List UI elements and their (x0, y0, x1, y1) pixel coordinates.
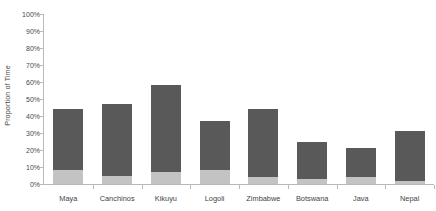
y-axis-tick-mark (40, 150, 43, 151)
y-axis-tick-label: 90% (14, 28, 40, 35)
x-axis-separator (190, 185, 191, 189)
x-axis-label: Canchinos (100, 194, 135, 203)
bar-slot (200, 14, 230, 184)
y-axis-tick-label: 70% (14, 62, 40, 69)
y-axis-tick-label: 20% (14, 147, 40, 154)
y-axis-tick-label: 50% (14, 96, 40, 103)
bar-stack[interactable] (346, 148, 376, 184)
x-axis-label: Logoli (205, 194, 225, 203)
x-axis-label: Botswana (296, 194, 328, 203)
y-axis-tick-labels: 0%10%20%30%40%50%60%70%80%90%100% (14, 0, 42, 211)
x-axis-label: Maya (59, 194, 77, 203)
bar-segment-upper[interactable] (53, 109, 83, 170)
bar-segment-lower[interactable] (346, 177, 376, 184)
x-axis-separator (434, 185, 435, 189)
bar-stack[interactable] (297, 142, 327, 184)
y-axis-title: Proportion of Time (0, 0, 14, 190)
bar-segment-upper[interactable] (346, 148, 376, 177)
y-axis-tick-mark (40, 116, 43, 117)
x-axis-label: Zimbabwe (246, 194, 280, 203)
bar-segment-lower[interactable] (102, 176, 132, 185)
bar-segment-lower[interactable] (151, 172, 181, 184)
x-axis-separator (288, 185, 289, 189)
x-axis-separator (239, 185, 240, 189)
bar-segment-upper[interactable] (102, 104, 132, 175)
y-axis-tick-mark (40, 133, 43, 134)
bar-slot (395, 14, 425, 184)
bar-segment-upper[interactable] (248, 109, 278, 177)
x-axis-label: Java (353, 194, 369, 203)
y-axis-tick-label: 60% (14, 79, 40, 86)
bar-stack[interactable] (395, 131, 425, 184)
x-axis-label: Kikuyu (155, 194, 177, 203)
y-axis-tick-label: 80% (14, 45, 40, 52)
bar-segment-lower[interactable] (200, 170, 230, 184)
bar-segment-upper[interactable] (151, 85, 181, 172)
x-axis-separator (93, 185, 94, 189)
y-axis-tick-mark (40, 48, 43, 49)
bar-slot (53, 14, 83, 184)
bar-segment-lower[interactable] (53, 170, 83, 184)
bar-segment-upper[interactable] (395, 131, 425, 180)
x-axis-separator (142, 185, 143, 189)
x-axis-labels: MayaCanchinosKikuyuLogoliZimbabweBotswan… (44, 185, 434, 211)
bar-stack[interactable] (248, 109, 278, 184)
y-axis-tick-label: 0% (14, 181, 40, 188)
bar-stack[interactable] (102, 104, 132, 184)
bar-slot (102, 14, 132, 184)
y-axis-tick-label: 100% (14, 11, 40, 18)
bar-slot (151, 14, 181, 184)
bar-slot (248, 14, 278, 184)
bar-segment-upper[interactable] (297, 142, 327, 179)
y-axis-tick-label: 10% (14, 164, 40, 171)
bar-chart: Proportion of Time 0%10%20%30%40%50%60%7… (0, 0, 436, 211)
y-axis-tick-mark (40, 184, 43, 185)
bar-slot (297, 14, 327, 184)
bar-slot (346, 14, 376, 184)
x-axis-separator (385, 185, 386, 189)
bar-stack[interactable] (200, 121, 230, 184)
bar-segment-lower[interactable] (248, 177, 278, 184)
bar-segment-lower[interactable] (395, 181, 425, 184)
y-axis-title-text: Proportion of Time (3, 65, 12, 126)
y-axis-tick-mark (40, 167, 43, 168)
plot-area (44, 14, 434, 184)
y-axis-tick-mark (40, 99, 43, 100)
bar-stack[interactable] (151, 85, 181, 184)
y-axis-tick-mark (40, 65, 43, 66)
y-axis-tick-mark (40, 31, 43, 32)
x-axis-separator (337, 185, 338, 189)
bar-segment-upper[interactable] (200, 121, 230, 170)
y-axis-tick-label: 30% (14, 130, 40, 137)
y-axis-tick-mark (40, 82, 43, 83)
bar-stack[interactable] (53, 109, 83, 184)
x-axis-label: Nepal (400, 194, 419, 203)
y-axis-tick-mark (40, 14, 43, 15)
y-axis-tick-label: 40% (14, 113, 40, 120)
bar-segment-lower[interactable] (297, 179, 327, 184)
